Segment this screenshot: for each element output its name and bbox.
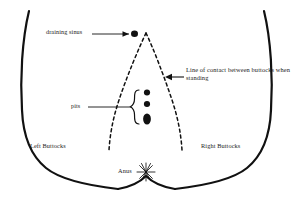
draining-sinus-dot (131, 31, 138, 38)
pits-curly-brace (131, 90, 140, 124)
contact-line-dashed (109, 33, 146, 150)
right-buttock-outline (175, 11, 272, 189)
pilonidal-sinus-diagram: draining sinus pits Line of contact betw… (0, 0, 293, 209)
contact-line-arrowhead (165, 74, 172, 80)
label-left-buttocks: Left Buttocks (30, 143, 66, 150)
pit-marker-1 (144, 90, 150, 96)
anus-starburst-icon (137, 163, 155, 181)
left-buttock-outline (21, 11, 118, 189)
label-right-buttocks: Right Buttocks (201, 143, 240, 150)
label-draining-sinus: draining sinus (46, 29, 82, 36)
natal-cleft-bottom-peak (118, 176, 175, 189)
diagram-canvas (0, 0, 293, 209)
label-anus: Anus (118, 168, 132, 175)
pit-marker-3 (143, 113, 151, 124)
draining-sinus-arrowhead (123, 31, 130, 36)
contact-line-dashed-right (146, 33, 182, 150)
pit-marker-2 (144, 101, 150, 107)
label-line-of-contact: Line of contact between buttocks when st… (186, 66, 290, 82)
label-pits: pits (71, 103, 80, 110)
